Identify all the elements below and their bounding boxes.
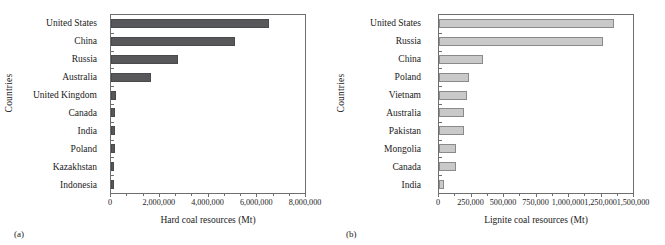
x-axis-b: 0250,000500,000750,0001,000,0001,250,000…	[438, 194, 634, 214]
bar	[439, 144, 456, 153]
bar	[111, 55, 178, 64]
x-tick-label: 0	[108, 198, 112, 207]
y-tick-label: United States	[348, 14, 426, 32]
x-minor-tick	[224, 194, 225, 196]
panel-tag-a: (a)	[14, 229, 24, 239]
x-tick-label: 1,250,000	[584, 198, 617, 207]
y-tick-labels-a: United StatesChinaRussiaAustraliaUnited …	[18, 14, 102, 194]
x-minor-tick	[617, 194, 618, 196]
x-minor-tick	[584, 194, 585, 196]
y-tick-labels-b: United StatesRussiaChinaPolandVietnamAus…	[348, 14, 426, 194]
x-major-tick	[536, 194, 537, 197]
bar	[439, 126, 464, 135]
y-tick-label: Canada	[348, 158, 426, 176]
bar-row	[439, 15, 633, 33]
x-tick-label: 8,000,000	[289, 198, 322, 207]
bar-row	[439, 86, 633, 104]
x-tick-label: 6,000,000	[240, 198, 273, 207]
y-tick-label: Kazakhstan	[18, 158, 102, 176]
bar	[439, 91, 467, 100]
x-minor-tick	[454, 194, 455, 196]
x-major-tick	[159, 194, 160, 197]
x-minor-tick	[519, 194, 520, 196]
x-major-tick	[256, 194, 257, 197]
bar	[111, 37, 235, 46]
x-major-tick	[305, 194, 306, 197]
bars-b	[439, 15, 633, 193]
bars-a	[111, 15, 305, 193]
x-minor-tick	[143, 194, 144, 196]
bar-row	[111, 33, 305, 51]
x-minor-tick	[175, 194, 176, 196]
x-major-tick	[601, 194, 602, 197]
y-tick-label: Pakistan	[348, 122, 426, 140]
x-minor-tick	[126, 194, 127, 196]
y-tick-label: United States	[18, 14, 102, 32]
x-major-tick	[208, 194, 209, 197]
x-axis-a: 02,000,0004,000,0006,000,0008,000,000	[110, 194, 306, 214]
bar	[439, 73, 469, 82]
panel-b: Countries United StatesRussiaChinaPoland…	[332, 0, 664, 245]
bar	[111, 144, 115, 153]
y-tick-label: Poland	[348, 68, 426, 86]
bar-row	[111, 122, 305, 140]
x-tick-label: 4,000,000	[191, 198, 224, 207]
bar	[439, 180, 444, 189]
plot-area-a	[110, 14, 306, 194]
y-tick-label: Poland	[18, 140, 102, 158]
bar	[111, 162, 114, 171]
x-tick-label: 1,000,000	[552, 198, 585, 207]
y-tick-label: India	[348, 176, 426, 194]
bar-row	[111, 104, 305, 122]
x-minor-tick	[240, 194, 241, 196]
y-tick-label: China	[18, 32, 102, 50]
bar-row	[439, 122, 633, 140]
x-tick-label: 500,000	[490, 198, 517, 207]
bar-row	[439, 33, 633, 51]
y-tick-label: Indonesia	[18, 176, 102, 194]
x-minor-tick	[273, 194, 274, 196]
x-major-tick	[503, 194, 504, 197]
y-tick-label: India	[18, 122, 102, 140]
y-tick-label: Mongolia	[348, 140, 426, 158]
x-axis-title-a: Hard coal resources (Mt)	[110, 215, 306, 225]
y-tick-label: Australia	[348, 104, 426, 122]
bar	[439, 162, 456, 171]
x-major-tick	[438, 194, 439, 197]
bar	[111, 126, 115, 135]
bar	[111, 73, 151, 82]
bar-row	[439, 51, 633, 69]
x-major-tick	[568, 194, 569, 197]
panel-tag-b: (b)	[346, 229, 357, 239]
bar-row	[439, 140, 633, 158]
x-minor-tick	[487, 194, 488, 196]
bar-row	[111, 68, 305, 86]
panel-a: Countries United StatesChinaRussiaAustra…	[0, 0, 332, 245]
x-tick-label: 1,500,000	[617, 198, 650, 207]
bar-row	[439, 104, 633, 122]
y-axis-title-a: Countries	[0, 0, 18, 185]
y-tick-label: Australia	[18, 68, 102, 86]
bar	[111, 108, 115, 117]
y-tick-label: Russia	[348, 32, 426, 50]
x-axis-title-b: Lignite coal resources (Mt)	[438, 215, 634, 225]
bar-row	[111, 15, 305, 33]
bar-row	[439, 157, 633, 175]
y-tick-label: United Kingdom	[18, 86, 102, 104]
bar	[111, 19, 269, 28]
bar	[439, 108, 464, 117]
bar	[439, 37, 603, 46]
x-minor-tick	[191, 194, 192, 196]
bar	[111, 91, 116, 100]
bar	[439, 55, 483, 64]
figure: Countries United StatesChinaRussiaAustra…	[0, 0, 665, 245]
bar-row	[111, 51, 305, 69]
bar-row	[111, 157, 305, 175]
bar	[439, 19, 614, 28]
bar-row	[111, 140, 305, 158]
x-tick-label: 0	[436, 198, 440, 207]
bar	[111, 180, 114, 189]
x-tick-label: 750,000	[522, 198, 549, 207]
x-minor-tick	[552, 194, 553, 196]
x-major-tick	[471, 194, 472, 197]
